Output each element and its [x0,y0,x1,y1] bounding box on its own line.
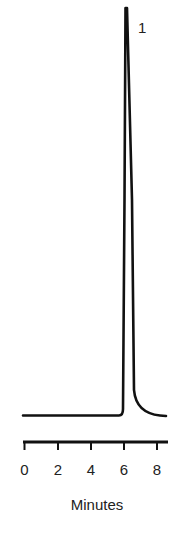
chromatogram-trace [23,8,166,416]
x-tick-label: 0 [20,461,28,478]
peak-label: 1 [138,19,146,36]
x-tick-label: 2 [54,461,62,478]
x-axis-title: Minutes [71,496,124,513]
x-tick-label: 4 [87,461,95,478]
x-tick-label: 6 [120,461,128,478]
x-tick-label: 8 [153,461,161,478]
chromatogram-chart: 1 0 2 4 6 8 Minutes [0,0,179,537]
x-axis: 0 2 4 6 8 Minutes [20,442,168,513]
